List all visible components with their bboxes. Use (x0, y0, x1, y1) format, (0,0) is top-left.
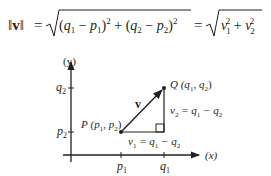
x-tick-label-p1: p1 (116, 159, 127, 175)
x-axis-label: (x) (205, 149, 218, 162)
y-tick-label-q2: q2 (56, 80, 66, 96)
y-tick-label-p2: p2 (56, 124, 67, 140)
right-angle-marker (156, 124, 164, 132)
point-q-label: Q (q1, q2) (170, 78, 212, 93)
v2-component-label: v2 = q1 − q2 (170, 104, 223, 119)
point-p-label: P (p1, p2) (80, 118, 122, 133)
vector-label-v: v (135, 97, 141, 111)
y-axis-label: (y) (63, 55, 76, 68)
vector-diagram: (y) (x) q2 p2 p1 q1 v P (p1, p2) Q (q1, … (0, 0, 271, 176)
point-p-dot (119, 130, 123, 134)
point-q-dot (162, 86, 166, 90)
v1-component-label: v1 = q1 − q2 (128, 135, 181, 150)
x-tick-label-q1: q1 (160, 159, 170, 175)
